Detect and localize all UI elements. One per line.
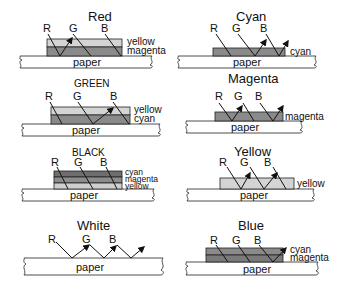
panel-blue: Blue paper cyan magenta R G B bbox=[186, 218, 330, 275]
layer-label-magenta: magenta bbox=[127, 45, 166, 56]
ray-label-r: R bbox=[48, 233, 56, 245]
ray-label-b: B bbox=[264, 156, 271, 168]
ray-b bbox=[117, 245, 144, 258]
panel-title: Blue bbox=[238, 218, 264, 233]
ray-label-b: B bbox=[110, 90, 117, 102]
ray-label-g: G bbox=[74, 156, 83, 168]
panel-magenta: Magenta paper magenta R G B bbox=[186, 71, 325, 133]
panel-title: GREEN bbox=[74, 78, 110, 89]
ray-label-r: R bbox=[51, 156, 59, 168]
paper-label: paper bbox=[243, 263, 271, 275]
ray-label-g: G bbox=[69, 22, 78, 34]
paper-label: paper bbox=[70, 189, 98, 201]
ray-label-r: R bbox=[210, 234, 218, 246]
paper-label: paper bbox=[233, 56, 261, 68]
ray-label-r: R bbox=[219, 156, 227, 168]
panel-cyan: Cyan paper cyan R G B bbox=[178, 9, 316, 68]
ray-label-g: G bbox=[232, 234, 241, 246]
paper-label: paper bbox=[73, 56, 101, 68]
panel-white: White paper R G B bbox=[24, 218, 163, 275]
layer-label-cyan: cyan bbox=[290, 46, 311, 57]
ray-label-g: G bbox=[234, 90, 243, 102]
layer-label-magenta: magenta bbox=[285, 111, 324, 122]
ray-label-r: R bbox=[45, 90, 53, 102]
paper-label: paper bbox=[72, 124, 100, 136]
layer-cyan bbox=[54, 171, 122, 177]
layer-label-cyan: cyan bbox=[134, 113, 155, 124]
ray-g bbox=[90, 245, 116, 258]
layer-label-magenta: magenta bbox=[290, 252, 329, 263]
ray-label-b: B bbox=[109, 233, 116, 245]
panel-yellow: Yellow paper yellow R G B bbox=[187, 144, 326, 201]
layer-yellow bbox=[54, 183, 122, 189]
panel-green: GREEN paper yellow cyan R G B bbox=[22, 78, 163, 136]
ray-label-g: G bbox=[240, 156, 249, 168]
layer-yellow bbox=[47, 39, 122, 47]
layer-yellow bbox=[51, 107, 130, 115]
ray-label-r: R bbox=[215, 90, 223, 102]
ray-label-b: B bbox=[254, 234, 261, 246]
subtractive-color-diagram: Red paper yellow magenta R G B Cyan pape… bbox=[0, 0, 340, 294]
panel-title: White bbox=[77, 218, 110, 233]
paper-label: paper bbox=[76, 261, 104, 273]
panel-red: Red paper yellow magenta R G B bbox=[20, 9, 167, 68]
paper-label: paper bbox=[240, 189, 268, 201]
ray-label-g: G bbox=[82, 233, 91, 245]
ray-label-b: B bbox=[101, 22, 108, 34]
ray-label-g: G bbox=[73, 90, 82, 102]
panel-title: Magenta bbox=[228, 71, 279, 86]
paper-label: paper bbox=[231, 121, 259, 133]
ray-label-r: R bbox=[210, 22, 218, 34]
layer-cyan bbox=[213, 48, 285, 56]
layer-label-yellow: yellow bbox=[297, 178, 326, 189]
ray-label-g: G bbox=[232, 22, 241, 34]
ray-label-r: R bbox=[43, 22, 51, 34]
ray-label-b: B bbox=[260, 22, 267, 34]
ray-label-b: B bbox=[100, 156, 107, 168]
layer-label-yellow: yellow bbox=[125, 181, 149, 191]
ray-label-b: B bbox=[255, 90, 262, 102]
panel-black: BLACK paper cyan magenta yellow R G B bbox=[22, 147, 159, 201]
layer-magenta bbox=[206, 255, 283, 262]
